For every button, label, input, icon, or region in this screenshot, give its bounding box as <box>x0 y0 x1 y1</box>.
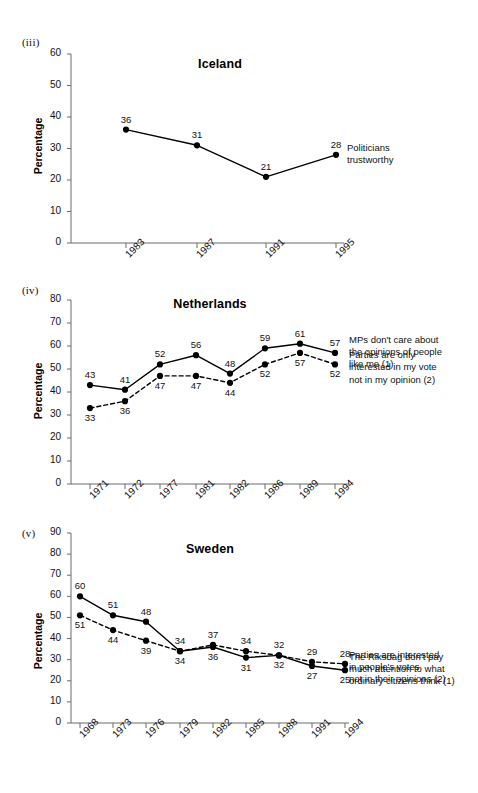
legend-text-2: Parties are interested in people's votes… <box>349 649 478 686</box>
y-tick-label: 70 <box>35 568 61 579</box>
y-tick-label: 0 <box>35 236 61 247</box>
y-tick-label: 60 <box>35 339 61 350</box>
data-point <box>157 361 163 367</box>
y-tick-label: 10 <box>35 454 61 465</box>
y-tick-label: 20 <box>35 674 61 685</box>
data-point <box>87 382 93 388</box>
y-tick-label: 50 <box>35 362 61 373</box>
data-label: 60 <box>75 580 86 591</box>
y-tick-label: 10 <box>35 205 61 216</box>
data-point <box>227 380 233 386</box>
legend-text-2: Parties are only interested in my vote n… <box>349 349 478 386</box>
data-label: 27 <box>307 670 318 681</box>
y-tick-label: 80 <box>35 547 61 558</box>
y-tick-label: 90 <box>35 526 61 537</box>
data-point <box>262 361 268 367</box>
data-point <box>297 350 303 356</box>
data-label: 56 <box>191 339 202 350</box>
data-label: 31 <box>192 129 203 140</box>
data-point <box>276 652 282 658</box>
data-point <box>342 661 348 667</box>
legend-text-1: Politicians trustworthy <box>347 142 477 166</box>
data-label: 43 <box>85 369 96 380</box>
y-tick-label: 70 <box>35 316 61 327</box>
data-label: 59 <box>260 332 271 343</box>
plot-area-iceland: 36312128 <box>0 0 478 280</box>
data-point <box>332 350 338 356</box>
data-point <box>262 345 268 351</box>
data-label: 34 <box>175 655 186 666</box>
data-label: 32 <box>274 659 285 670</box>
data-label: 28 <box>331 139 342 150</box>
data-label: 51 <box>108 599 119 610</box>
data-point <box>194 142 200 148</box>
y-tick-label: 30 <box>35 408 61 419</box>
data-label: 33 <box>85 412 96 423</box>
data-label: 39 <box>141 645 152 656</box>
data-point <box>87 405 93 411</box>
data-label: 61 <box>295 328 306 339</box>
data-label: 47 <box>191 380 202 391</box>
data-point <box>297 341 303 347</box>
data-point <box>227 371 233 377</box>
data-point <box>193 373 199 379</box>
y-tick-label: 40 <box>35 632 61 643</box>
data-label: 52 <box>155 348 166 359</box>
y-tick-label: 60 <box>35 47 61 58</box>
panel-netherlands: (iv) Netherlands Percentage 434152564859… <box>0 280 478 525</box>
data-label: 36 <box>208 651 219 662</box>
data-label: 29 <box>307 646 318 657</box>
data-point <box>122 398 128 404</box>
data-label: 44 <box>225 387 236 398</box>
y-tick-label: 0 <box>35 716 61 727</box>
data-point <box>210 642 216 648</box>
figure-page: (iii) Iceland Percentage 36312128 605040… <box>0 0 478 793</box>
data-point <box>143 619 149 625</box>
y-tick-label: 50 <box>35 79 61 90</box>
y-tick-label: 50 <box>35 610 61 621</box>
y-tick-label: 30 <box>35 142 61 153</box>
data-label: 52 <box>260 368 271 379</box>
data-point <box>263 174 269 180</box>
data-point <box>122 387 128 393</box>
data-point <box>110 612 116 618</box>
y-tick-label: 30 <box>35 653 61 664</box>
y-tick-label: 20 <box>35 173 61 184</box>
data-label: 57 <box>295 357 306 368</box>
y-tick-label: 0 <box>35 477 61 488</box>
data-point <box>342 667 348 673</box>
data-point <box>77 612 83 618</box>
y-tick-label: 40 <box>35 110 61 121</box>
data-point <box>77 593 83 599</box>
y-tick-label: 60 <box>35 589 61 600</box>
panel-sweden: (v) Sweden Percentage 605148343631322725… <box>0 525 478 793</box>
data-point <box>243 648 249 654</box>
data-point <box>333 152 339 158</box>
y-tick-label: 20 <box>35 431 61 442</box>
data-point <box>157 373 163 379</box>
data-label: 34 <box>241 635 252 646</box>
data-label: 34 <box>175 635 186 646</box>
data-label: 32 <box>274 639 285 650</box>
series-line-1 <box>126 130 336 177</box>
data-label: 48 <box>141 606 152 617</box>
data-label: 36 <box>121 114 132 125</box>
panel-iceland: (iii) Iceland Percentage 36312128 605040… <box>0 0 478 280</box>
y-tick-label: 40 <box>35 385 61 396</box>
y-tick-label: 80 <box>35 293 61 304</box>
data-label: 41 <box>120 374 131 385</box>
data-label: 48 <box>225 358 236 369</box>
data-label: 57 <box>330 337 341 348</box>
y-tick-label: 10 <box>35 695 61 706</box>
data-label: 21 <box>261 161 272 172</box>
data-label: 51 <box>75 619 86 630</box>
data-label: 37 <box>208 629 219 640</box>
data-point <box>243 654 249 660</box>
data-label: 47 <box>155 380 166 391</box>
data-point <box>193 352 199 358</box>
data-point <box>332 361 338 367</box>
data-point <box>143 638 149 644</box>
data-label: 31 <box>241 662 252 673</box>
data-point <box>177 648 183 654</box>
data-label: 44 <box>108 634 119 645</box>
